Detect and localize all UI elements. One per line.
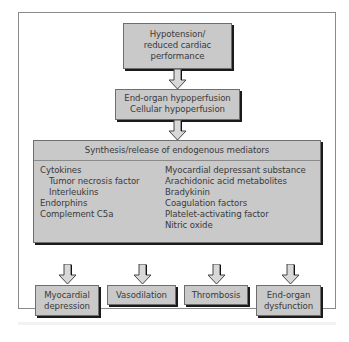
down-arrow-icon	[282, 264, 300, 285]
box-line: depression	[36, 301, 98, 312]
hypotension-box: Hypotension/ reduced cardiac performance	[123, 23, 232, 69]
box-line: End-organ hypoperfusion	[116, 93, 239, 104]
box-line: reduced cardiac	[124, 40, 231, 51]
box-line: Cellular hypoperfusion	[116, 104, 239, 115]
box-line: performance	[124, 51, 231, 62]
mediator-item: Nitric oxide	[165, 220, 306, 231]
mediators-box: Synthesis/release of endogenous mediator…	[33, 140, 321, 243]
mediator-item: Cytokines	[40, 165, 140, 176]
down-arrow-icon	[134, 264, 152, 285]
down-arrow-icon	[208, 264, 226, 285]
mediator-item: Endorphins	[40, 198, 140, 209]
box-line: Hypotension/	[124, 29, 231, 40]
mediator-item: Arachidonic acid metabolites	[165, 176, 306, 187]
mediators-header: Synthesis/release of endogenous mediator…	[34, 141, 320, 161]
mediator-item: Platelet-activating factor	[165, 209, 306, 220]
down-arrow-icon	[59, 264, 77, 285]
box-line: Vasodilation	[108, 290, 175, 301]
bottom-rule	[18, 322, 336, 325]
outcome-vasodilation: Vasodilation	[107, 285, 176, 305]
box-line: End-organ	[257, 290, 320, 301]
mediator-item: Bradykinin	[165, 187, 306, 198]
outcome-myocardial-depression: Myocardial depression	[35, 285, 99, 316]
mediator-item: Coagulation factors	[165, 198, 306, 209]
box-line: dysfunction	[257, 301, 320, 312]
mediators-left-column: Cytokines Tumor necrosis factor Interleu…	[40, 165, 140, 220]
mediator-item: Tumor necrosis factor	[40, 176, 140, 187]
outcome-end-organ-dysfunction: End-organ dysfunction	[256, 285, 321, 316]
outcome-thrombosis: Thrombosis	[184, 285, 248, 305]
mediators-right-column: Myocardial depressant substance Arachido…	[165, 165, 306, 231]
box-line: Myocardial	[36, 290, 98, 301]
hypoperfusion-box: End-organ hypoperfusion Cellular hypoper…	[115, 89, 240, 120]
box-line: Thrombosis	[185, 290, 247, 301]
mediator-item: Interleukins	[40, 187, 140, 198]
mediator-item: Complement C5a	[40, 209, 140, 220]
down-arrow-icon	[169, 120, 187, 141]
mediator-item: Myocardial depressant substance	[165, 165, 306, 176]
down-arrow-icon	[169, 69, 187, 90]
